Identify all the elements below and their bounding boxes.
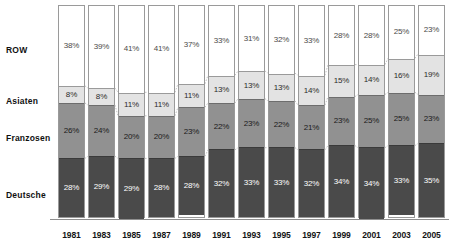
value-label: 16%: [394, 72, 410, 80]
value-label: 11%: [154, 101, 169, 109]
segment-row-1999: 28%: [329, 6, 354, 65]
segment-franzosen-1997: 21%: [299, 105, 324, 149]
segment-franzosen-1987: 20%: [149, 116, 174, 158]
x-tick-1999: 1999: [325, 230, 359, 240]
value-label: 33%: [244, 179, 260, 187]
value-label: 39%: [94, 43, 110, 51]
segment-asiaten-1981: 8%: [59, 86, 84, 103]
bar-1999[interactable]: 28%15%23%34%: [328, 5, 355, 218]
segment-row-1989: 37%: [179, 6, 204, 84]
value-label: 32%: [274, 36, 290, 44]
segment-row-1985: 41%: [119, 6, 144, 93]
value-label: 28%: [154, 184, 170, 192]
value-label: 19%: [424, 71, 440, 79]
value-label: 28%: [334, 32, 350, 40]
x-tick-1991: 1991: [205, 230, 239, 240]
segment-asiaten-1993: 13%: [239, 71, 264, 98]
value-label: 38%: [64, 42, 80, 50]
category-label-asiaten: Asiaten: [6, 96, 38, 106]
value-label: 23%: [424, 115, 440, 123]
value-label: 8%: [66, 91, 77, 99]
segment-asiaten-2003: 16%: [389, 59, 414, 93]
segment-row-1991: 33%: [209, 6, 234, 76]
segment-deutsche-1993: 33%: [239, 147, 264, 217]
value-label: 21%: [304, 124, 320, 132]
segment-row-2001: 28%: [359, 6, 384, 65]
x-tick-1989: 1989: [175, 230, 209, 240]
x-axis-line: [50, 219, 449, 220]
value-label: 13%: [274, 84, 290, 92]
segment-deutsche-1987: 28%: [149, 158, 174, 217]
segment-franzosen-1983: 24%: [89, 105, 114, 156]
segment-asiaten-2001: 14%: [359, 65, 384, 95]
x-tick-2003: 2003: [385, 230, 419, 240]
bar-1997[interactable]: 33%14%21%32%: [298, 5, 325, 218]
segment-asiaten-1985: 11%: [119, 93, 144, 116]
segment-deutsche-1991: 32%: [209, 149, 234, 217]
segment-deutsche-1981: 28%: [59, 158, 84, 217]
x-tick-1985: 1985: [115, 230, 149, 240]
bar-1983[interactable]: 39%8%24%29%: [88, 5, 115, 218]
segment-franzosen-1985: 20%: [119, 116, 144, 158]
segment-row-1987: 41%: [149, 6, 174, 93]
value-label: 32%: [214, 180, 230, 188]
segment-asiaten-1991: 13%: [209, 76, 234, 103]
segment-row-1997: 33%: [299, 6, 324, 76]
value-label: 29%: [94, 183, 110, 191]
value-label: 15%: [334, 77, 350, 85]
value-label: 26%: [64, 127, 80, 135]
segment-asiaten-1987: 11%: [149, 93, 174, 116]
x-tick-1987: 1987: [145, 230, 179, 240]
segment-asiaten-1983: 8%: [89, 88, 114, 105]
value-label: 28%: [64, 184, 80, 192]
segment-row-1983: 39%: [89, 6, 114, 88]
value-label: 34%: [364, 180, 380, 188]
value-label: 22%: [274, 121, 290, 129]
segment-deutsche-1989: 28%: [179, 156, 204, 215]
segment-row-2003: 25%: [389, 6, 414, 59]
bar-1991[interactable]: 33%13%22%32%: [208, 5, 235, 218]
bar-1993[interactable]: 31%13%23%33%: [238, 5, 265, 218]
x-tick-2005: 2005: [415, 230, 449, 240]
value-label: 14%: [304, 87, 320, 95]
value-label: 23%: [184, 128, 200, 136]
x-tick-1993: 1993: [235, 230, 269, 240]
value-label: 25%: [394, 28, 410, 36]
segment-asiaten-2005: 19%: [419, 55, 444, 95]
value-label: 28%: [364, 32, 380, 40]
segment-row-1995: 32%: [269, 6, 294, 74]
value-label: 33%: [274, 179, 290, 187]
value-label: 23%: [424, 26, 440, 34]
x-tick-1995: 1995: [265, 230, 299, 240]
segment-asiaten-1997: 14%: [299, 76, 324, 106]
bar-1989[interactable]: 37%11%23%28%: [178, 5, 205, 218]
bar-1995[interactable]: 32%13%22%33%: [268, 5, 295, 218]
bar-1987[interactable]: 41%11%20%28%: [148, 5, 175, 218]
plot-area: 38%8%26%28%39%8%24%29%41%11%20%29%41%11%…: [58, 5, 445, 218]
value-label: 20%: [154, 133, 170, 141]
value-label: 11%: [124, 101, 139, 109]
segment-deutsche-1999: 34%: [329, 145, 354, 217]
bar-2001[interactable]: 28%14%25%34%: [358, 5, 385, 218]
bar-1981[interactable]: 38%8%26%28%: [58, 5, 85, 218]
segment-deutsche-1997: 32%: [299, 149, 324, 217]
value-label: 31%: [244, 35, 260, 43]
bar-2003[interactable]: 25%16%25%33%: [388, 5, 415, 218]
segment-franzosen-1999: 23%: [329, 97, 354, 146]
bar-1985[interactable]: 41%11%20%29%: [118, 5, 145, 218]
segment-deutsche-1995: 33%: [269, 147, 294, 217]
x-tick-2001: 2001: [355, 230, 389, 240]
value-label: 25%: [364, 117, 380, 125]
value-label: 28%: [184, 182, 200, 190]
segment-franzosen-2001: 25%: [359, 95, 384, 148]
value-label: 33%: [304, 37, 320, 45]
segment-franzosen-2005: 23%: [419, 95, 444, 144]
value-label: 13%: [214, 86, 230, 94]
category-label-deutsche: Deutsche: [6, 190, 46, 200]
segment-franzosen-1981: 26%: [59, 103, 84, 158]
segment-deutsche-1983: 29%: [89, 156, 114, 217]
bar-2005[interactable]: 23%19%23%35%: [418, 5, 445, 218]
category-label-row: ROW: [6, 45, 27, 55]
value-label: 23%: [244, 120, 260, 128]
value-label: 8%: [96, 93, 107, 101]
